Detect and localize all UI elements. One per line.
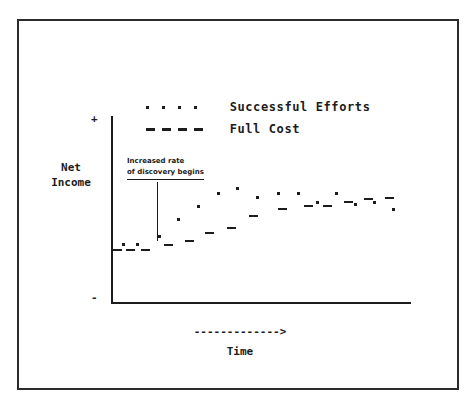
y-axis-tick-positive: + [91,113,98,124]
data-point-successful-efforts [354,203,357,206]
data-point-successful-efforts [335,192,338,195]
data-point-successful-efforts [236,187,239,190]
data-point-full-cost [304,205,313,207]
dotted-line-swatch [146,101,212,113]
dashed-line-swatch [146,123,212,135]
y-axis-title: Net Income [34,160,108,190]
exhibit-figure: + - Net Income -------------> Time Succe… [0,0,476,406]
annotation-leader-line [157,182,158,241]
y-axis-line [111,116,113,304]
legend-label-full-cost: Full Cost [230,122,300,136]
data-point-full-cost [113,249,122,251]
data-point-successful-efforts [316,201,319,204]
data-point-successful-efforts [297,192,300,195]
annotation-line-1: Increased rate [127,156,204,167]
data-point-full-cost [385,197,394,199]
x-axis-direction-arrow: -------------> [160,325,320,338]
data-point-successful-efforts [136,243,139,246]
data-point-successful-efforts [277,192,280,195]
annotation-increased-discovery: Increased rate of discovery begins [127,156,204,180]
data-point-full-cost [227,227,236,229]
x-axis-title: Time [160,345,320,358]
data-point-full-cost [344,201,353,203]
chart-legend: Successful Efforts Full Cost [146,96,370,140]
data-point-full-cost [164,244,173,246]
data-point-full-cost [249,215,258,217]
data-point-successful-efforts [373,201,376,204]
data-point-full-cost [126,249,135,251]
x-axis-line [111,302,411,304]
plot-area: + - Net Income -------------> Time Succe… [0,0,476,406]
legend-label-successful-efforts: Successful Efforts [230,100,371,114]
data-point-successful-efforts [256,196,259,199]
data-point-full-cost [323,205,332,207]
data-point-full-cost [278,208,287,210]
data-point-successful-efforts [217,192,220,195]
data-point-successful-efforts [197,205,200,208]
data-point-successful-efforts [158,235,161,238]
data-point-full-cost [364,198,373,200]
data-point-full-cost [205,232,214,234]
data-point-full-cost [185,240,194,242]
annotation-line-2: of discovery begins [127,167,204,180]
legend-entry-full-cost: Full Cost [146,118,370,140]
legend-entry-successful-efforts: Successful Efforts [146,96,370,118]
data-point-successful-efforts [392,208,395,211]
data-point-successful-efforts [177,218,180,221]
data-point-full-cost [141,249,150,251]
data-point-successful-efforts [122,243,125,246]
y-axis-tick-negative: - [91,292,98,303]
